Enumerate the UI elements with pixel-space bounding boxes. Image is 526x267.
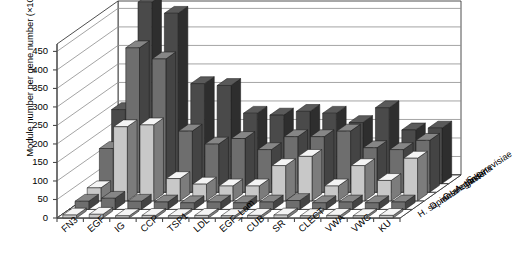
bar-front-face	[114, 127, 128, 201]
chart-figure: Module number per gene number (×10000) 4…	[0, 0, 526, 267]
bar-front-face	[128, 201, 142, 209]
bar-front-face	[404, 158, 418, 201]
bar-side-face	[418, 151, 428, 200]
bar-front-face	[140, 125, 154, 201]
bar-side-face	[430, 133, 440, 192]
bar-side-face	[442, 121, 452, 183]
plot-area	[0, 0, 526, 267]
bar-side-face	[286, 159, 296, 201]
bar-side-face	[127, 120, 137, 201]
bar-front-face	[365, 203, 379, 210]
bar-side-face	[166, 52, 176, 192]
bar-side-face	[312, 149, 322, 200]
bar-side-face	[154, 118, 164, 201]
bar-side-face	[365, 159, 375, 201]
bar-front-face	[181, 203, 195, 210]
